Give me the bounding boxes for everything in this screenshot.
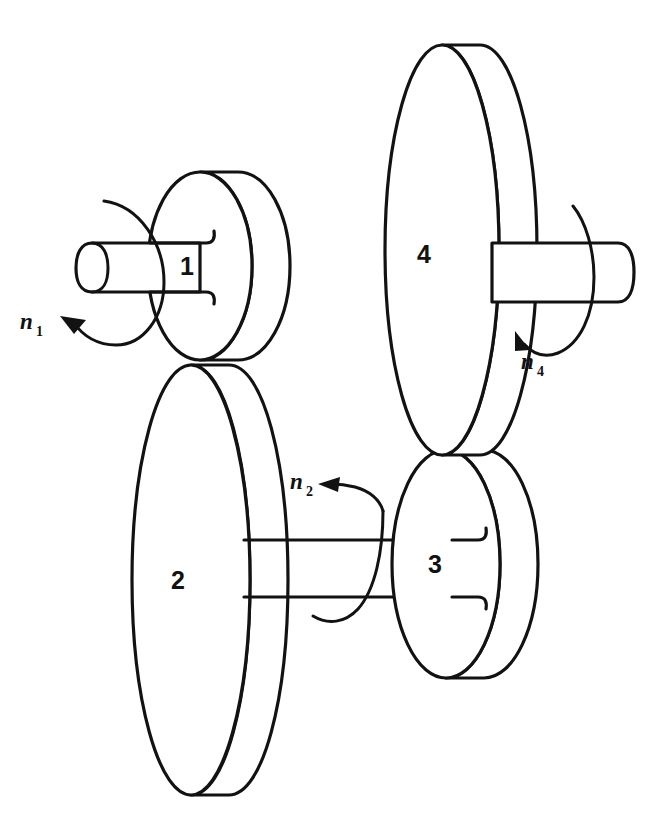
gear-2-assembly <box>132 365 288 795</box>
n2-arc-upper <box>331 484 383 511</box>
gear-1-label: 1 <box>180 252 194 280</box>
rotation-arrow-n2 <box>313 477 383 621</box>
gear-train-diagram: 1 2 3 4 n 1 n 2 n 4 <box>0 0 668 818</box>
gear-3-face <box>392 450 500 678</box>
n2-subscript: 2 <box>306 484 313 499</box>
shaft-4-body <box>492 243 634 302</box>
shaft-4 <box>492 243 634 302</box>
n1-subscript: 1 <box>36 324 43 339</box>
speed-label-n2: n 2 <box>290 469 313 499</box>
n2-symbol: n <box>290 469 303 494</box>
gear-2-label: 2 <box>171 566 185 594</box>
gear-4-label: 4 <box>417 240 431 268</box>
n4-symbol: n <box>521 349 534 374</box>
n2-arc <box>313 511 383 621</box>
n4-subscript: 4 <box>537 364 544 379</box>
gear-train-illustration: 1 2 3 4 n 1 n 2 n 4 <box>0 0 668 818</box>
gear-2-face <box>132 365 250 795</box>
gear-4-face <box>385 45 499 455</box>
speed-label-n1: n 1 <box>20 309 43 339</box>
n2-arrowhead <box>318 477 340 492</box>
n1-symbol: n <box>20 309 33 334</box>
gear-3-assembly <box>392 450 538 678</box>
gear-3-label: 3 <box>428 550 442 578</box>
